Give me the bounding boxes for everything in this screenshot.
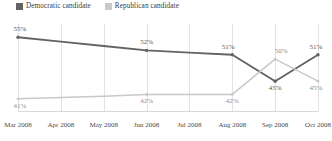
data-point-marker: [231, 53, 234, 56]
x-axis-tick-label: Apr 2008: [48, 122, 75, 129]
legend-swatch-republican: [105, 3, 112, 10]
point-value-label: 42%: [226, 98, 239, 105]
x-axis-tick-label: Oct 2008: [305, 122, 331, 129]
point-value-label: 51%: [222, 44, 235, 51]
point-value-label: 45%: [269, 85, 282, 92]
x-axis-labels: Mar 2008Apr 2008May 2008Jun 2008Jul 2008…: [18, 122, 318, 136]
data-point-marker: [317, 80, 320, 83]
data-point-marker: [274, 58, 277, 61]
legend-label-republican: Republican candidate: [115, 3, 179, 10]
legend-item-republican: Republican candidate: [105, 3, 179, 10]
line-chart: Democratic candidate Republican candidat…: [0, 0, 332, 141]
data-point-marker: [16, 36, 19, 39]
plot-area: 55%52%51%45%51%41%42%42%50%45%: [18, 24, 318, 112]
x-axis-tick-label: Jun 2008: [134, 122, 159, 129]
data-point-marker: [145, 93, 148, 96]
series-line-democratic: [18, 37, 318, 81]
x-axis-tick-label: May 2008: [89, 122, 118, 129]
grid-line: [318, 24, 319, 112]
x-axis-tick-label: Aug 2008: [218, 122, 246, 129]
point-value-label: 45%: [310, 85, 323, 92]
data-point-marker: [145, 49, 148, 52]
chart-legend: Democratic candidate Republican candidat…: [16, 3, 179, 10]
point-value-label: 55%: [14, 26, 27, 33]
point-value-label: 41%: [14, 103, 27, 110]
data-point-marker: [273, 80, 276, 83]
x-axis-tick-label: Mar 2008: [4, 122, 31, 129]
legend-label-democratic: Democratic candidate: [26, 3, 91, 10]
data-point-marker: [17, 97, 20, 100]
data-point-marker: [316, 53, 319, 56]
point-value-label: 42%: [140, 98, 153, 105]
x-axis-tick-label: Sep 2008: [262, 122, 288, 129]
point-value-label: 52%: [140, 39, 153, 46]
series-container: [18, 24, 318, 112]
data-point-marker: [231, 93, 234, 96]
x-axis-tick-label: Jul 2008: [177, 122, 201, 129]
legend-item-democratic: Democratic candidate: [16, 3, 91, 10]
point-value-label: 50%: [275, 48, 288, 55]
legend-swatch-democratic: [16, 3, 23, 10]
point-value-label: 51%: [310, 44, 323, 51]
